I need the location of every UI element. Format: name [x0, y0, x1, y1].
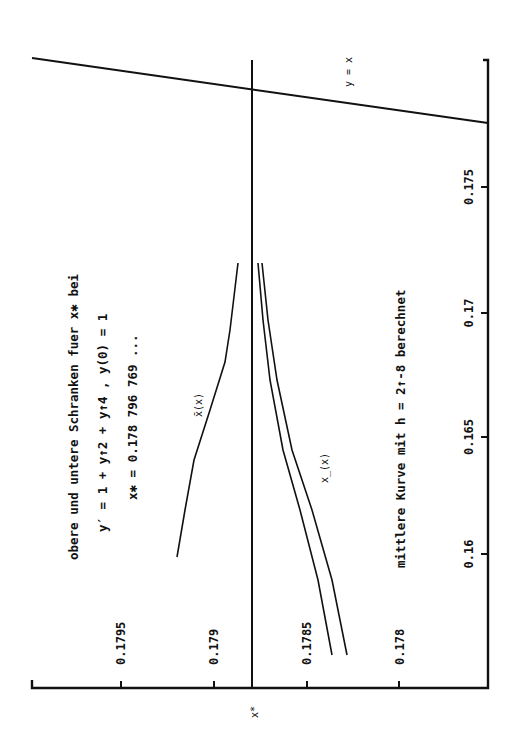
chart-title-line-1: obere und untere Schranken fuer x✱ bei [66, 274, 81, 560]
xtick-label-0: 0.16 [462, 540, 476, 569]
ytick-label-2: 0.1785 [300, 622, 314, 665]
chart-canvas: 0.1795 0.179 0.1785 0.178 0.175 0.17 0.1… [0, 0, 520, 741]
x-star-axis-label: x* [249, 706, 260, 718]
identity-line-label: y = x [343, 57, 354, 87]
chart-title-line-3: x✱ = 0.178 796 769 ... [125, 334, 140, 500]
upper-bound-label: x̄(x) [193, 393, 204, 417]
xtick-label-1: 0.165 [462, 419, 476, 455]
xtick-label-2: 0.17 [462, 299, 476, 328]
lower-bound-curve [262, 263, 347, 655]
ytick-label-1: 0.179 [207, 629, 221, 665]
middle-curve-annotation: mittlere Kurve mit h = 2↑-8 berechnet [393, 290, 408, 568]
ytick-label-3: 0.178 [393, 629, 407, 665]
chart-title-line-2: y′ = 1 + y↑2 + y↑4 , y(0) = 1 [95, 314, 110, 532]
xtick-label-3: 0.175 [462, 169, 476, 205]
ytick-label-0: 0.1795 [114, 622, 128, 665]
lower-bound-label: x̲(x) [319, 453, 331, 483]
upper-bound-curve [177, 263, 238, 557]
identity-line [32, 58, 488, 123]
